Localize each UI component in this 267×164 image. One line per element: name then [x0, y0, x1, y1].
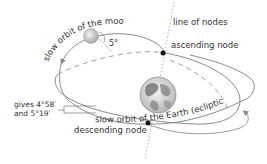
- moon-orbit-label: slow orbit of the moon: [0, 0, 124, 63]
- descending-node-label: descending node: [74, 126, 147, 135]
- angle-arc: [99, 32, 105, 42]
- earth-icon: [140, 77, 176, 113]
- ascending-node-label: ascending node: [171, 41, 238, 50]
- angle-label: 5°: [109, 40, 118, 48]
- gives-label-line2: and 5°19′: [14, 110, 50, 118]
- moon-icon: [84, 29, 99, 44]
- ascending-node-dot: [161, 51, 166, 56]
- moon-orbit-back-dashed: [58, 52, 165, 74]
- lunar-orbit-diagram: slow orbit of the moon slow orbit of the…: [0, 0, 267, 164]
- line-of-nodes-label: line of nodes: [173, 18, 228, 27]
- gives-label-line1: gives 4°58′: [14, 101, 56, 109]
- earth-orbit-left: [60, 62, 68, 100]
